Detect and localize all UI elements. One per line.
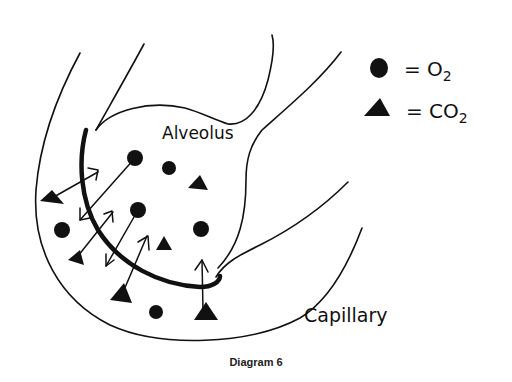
capillary-inner-wall-lower	[216, 182, 348, 277]
capillary-inner-wall	[96, 44, 144, 130]
diagram-caption: Diagram 6	[229, 356, 282, 368]
alveolus-outline-right	[218, 52, 341, 268]
alveolus-label: Alveolus	[162, 123, 234, 143]
legend-co2-text: = CO2	[406, 99, 468, 126]
o2-molecule	[54, 222, 70, 238]
legend: = O2 = CO2	[364, 57, 468, 126]
co2-diffusion-arrow	[52, 172, 98, 198]
gas-exchange-diagram: Alveolus Capillary = O2 = CO2 Diagram 6	[0, 0, 512, 382]
co2-triangle-icon	[364, 98, 390, 116]
co2-molecule	[188, 175, 208, 190]
co2-molecule	[40, 190, 64, 204]
o2-molecule	[162, 161, 176, 175]
co2-molecule	[110, 283, 132, 303]
legend-o2-text: = O2	[404, 57, 452, 84]
o2-circle-icon	[370, 58, 388, 78]
capillary-label: Capillary	[304, 304, 388, 326]
co2-molecule	[194, 302, 218, 320]
co2-molecule	[156, 236, 172, 250]
o2-molecule	[149, 305, 163, 319]
o2-molecule	[193, 221, 209, 237]
co2-diffusion-arrow	[202, 260, 203, 310]
